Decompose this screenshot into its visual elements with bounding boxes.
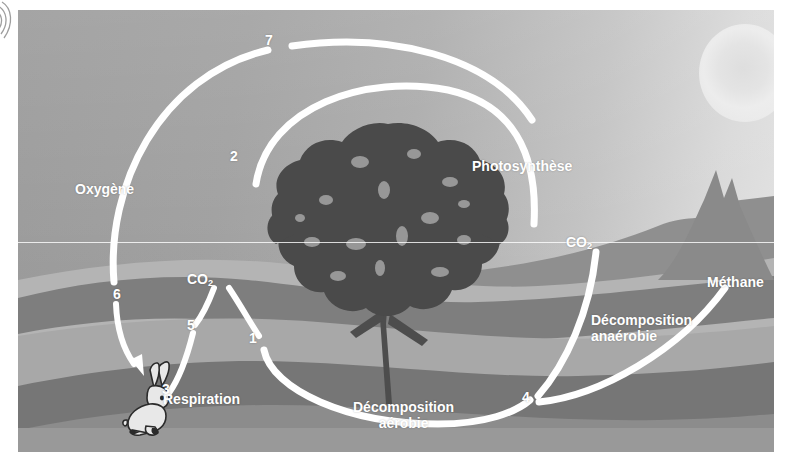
label-respiration: Respiration [163,392,240,408]
corner-spiral-artifact [0,0,26,44]
margin-left [0,0,18,459]
step-number-2: 2 [230,148,238,164]
label-co2-right: CO2 [566,235,592,251]
label-decomposition-aerobie: Décomposition aérobie [353,400,454,431]
label-co2-left: CO2 [187,272,213,288]
co2-left-subscript: 2 [208,278,213,288]
step-number-7: 7 [265,32,273,48]
step-number-3: 3 [162,381,170,397]
co2-right-subscript: 2 [587,241,592,251]
co2-left-text: CO [187,271,208,287]
co2-right-text: CO [566,234,587,250]
margin-right [774,0,787,459]
label-photosynthese: Photosynthèse [472,159,572,175]
scan-artifact-line [18,242,774,243]
margin-bottom [0,452,787,459]
label-oxygene: Oxygène [75,182,134,198]
step-number-5: 5 [187,317,195,333]
step-number-4: 4 [522,389,530,405]
step-number-1: 1 [249,330,257,346]
label-decomposition-anaerobie: Décomposition anaérobie [591,313,692,344]
step-number-6: 6 [113,286,121,302]
diagram-canvas: Oxygène Photosynthèse CO2 CO2 Méthane Re… [0,0,787,459]
label-methane: Méthane [707,275,764,291]
margin-top [0,0,787,10]
scene: Oxygène Photosynthèse CO2 CO2 Méthane Re… [18,10,774,452]
